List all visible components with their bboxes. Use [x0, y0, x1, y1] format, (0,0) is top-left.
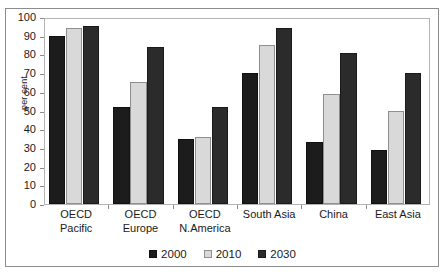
- y-tick-label: 80: [24, 48, 36, 61]
- bar: [113, 107, 130, 204]
- legend-label: 2010: [216, 248, 242, 260]
- bar: [212, 107, 229, 204]
- bar: [306, 142, 323, 204]
- bar: [405, 73, 422, 204]
- legend-item: 2000: [149, 248, 187, 260]
- y-tick-label: 50: [24, 105, 36, 118]
- bar: [388, 111, 405, 205]
- y-tick-label: 100: [18, 11, 36, 24]
- bar: [178, 139, 195, 204]
- bar: [195, 137, 212, 204]
- y-tick-label: 40: [24, 123, 36, 136]
- chart-figure: per cent 1009080706050403020100 OECD Pac…: [0, 0, 445, 275]
- y-tick-label: 60: [24, 86, 36, 99]
- bar: [83, 26, 100, 204]
- chart-legend: 200020102030: [0, 248, 445, 260]
- bar: [66, 28, 83, 204]
- bar: [323, 94, 340, 204]
- bar: [242, 73, 259, 204]
- bar: [371, 150, 388, 204]
- x-axis-label: East Asia: [353, 208, 443, 222]
- legend-swatch: [149, 250, 157, 258]
- y-tick-label: 20: [24, 161, 36, 174]
- legend-label: 2030: [270, 248, 296, 260]
- chart-title-clipped: [0, 0, 445, 3]
- legend-item: 2010: [204, 248, 242, 260]
- y-tick-label: 10: [24, 179, 36, 192]
- bar: [147, 47, 164, 204]
- legend-swatch: [204, 250, 212, 258]
- bar: [276, 28, 293, 204]
- y-tick-mark: [40, 205, 44, 206]
- legend-item: 2030: [258, 248, 296, 260]
- bar: [259, 45, 276, 204]
- y-tick-label: 90: [24, 30, 36, 43]
- bar: [130, 82, 147, 204]
- y-tick-label: 30: [24, 142, 36, 155]
- bar: [340, 53, 357, 204]
- legend-label: 2000: [161, 248, 187, 260]
- y-tick-label: 70: [24, 67, 36, 80]
- plot-area: [44, 18, 430, 205]
- legend-swatch: [258, 250, 266, 258]
- bar: [49, 36, 66, 204]
